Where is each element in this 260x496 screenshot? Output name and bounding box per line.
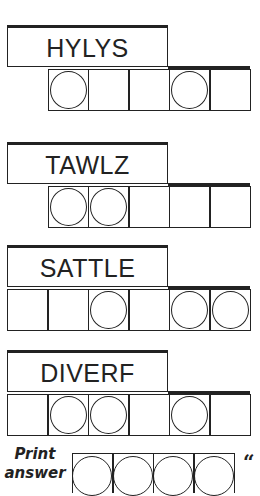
circle-marker-icon [171, 291, 208, 329]
circle-marker-icon [90, 396, 127, 434]
print-answer-line2: answer [4, 464, 66, 483]
answer-letter-cell[interactable] [113, 453, 154, 493]
scrambled-word-box: SATTLE [7, 245, 168, 287]
scrambled-word-box: TAWLZ [7, 142, 168, 184]
letter-cell[interactable] [129, 69, 170, 111]
answer-letter-cell[interactable] [72, 453, 113, 493]
circled-letter-cell[interactable] [48, 394, 89, 436]
scrambled-word: DIVERF [8, 353, 167, 391]
circled-letter-cell[interactable] [88, 394, 129, 436]
letter-cell[interactable] [129, 186, 170, 228]
circle-marker-icon [153, 456, 193, 496]
circle-marker-icon [50, 396, 87, 434]
scrambled-word-box: DIVERF [7, 350, 168, 392]
circled-letter-cell[interactable] [169, 289, 210, 331]
circle-marker-icon [194, 456, 234, 496]
letter-cell[interactable] [7, 289, 48, 331]
circled-letter-cell[interactable] [210, 289, 251, 331]
circled-letter-cell[interactable] [169, 69, 210, 111]
letter-cell[interactable] [210, 186, 251, 228]
circled-letter-cell[interactable] [88, 186, 129, 228]
letter-cell[interactable] [129, 394, 170, 436]
letter-cell[interactable] [7, 394, 48, 436]
answer-letter-cell[interactable] [194, 453, 235, 493]
circled-letter-cell[interactable] [169, 394, 210, 436]
letter-cell[interactable] [210, 394, 251, 436]
letter-cell[interactable] [210, 69, 251, 111]
circle-marker-icon [50, 71, 87, 109]
circle-marker-icon [212, 291, 249, 329]
scrambled-word: HYLYS [8, 28, 167, 66]
scrambled-word: TAWLZ [8, 145, 167, 183]
circled-letter-cell[interactable] [48, 186, 89, 228]
letter-cell[interactable] [169, 186, 210, 228]
circled-letter-cell[interactable] [88, 289, 129, 331]
answer-letter-cell[interactable] [153, 453, 194, 493]
circled-letter-cell[interactable] [48, 69, 89, 111]
circle-marker-icon [171, 71, 208, 109]
letter-cell[interactable] [129, 289, 170, 331]
circle-marker-icon [113, 456, 153, 496]
scrambled-word: SATTLE [8, 248, 167, 286]
circle-marker-icon [50, 188, 87, 226]
scrambled-word-box: HYLYS [7, 25, 168, 67]
circle-marker-icon [90, 188, 127, 226]
quote-mark: “ [243, 450, 255, 474]
circle-marker-icon [171, 396, 208, 434]
circle-marker-icon [72, 456, 112, 496]
print-answer-label: Print answer [4, 445, 66, 483]
letter-cell[interactable] [48, 289, 89, 331]
print-answer-line1: Print [4, 445, 66, 464]
letter-cell[interactable] [88, 69, 129, 111]
circle-marker-icon [90, 291, 127, 329]
